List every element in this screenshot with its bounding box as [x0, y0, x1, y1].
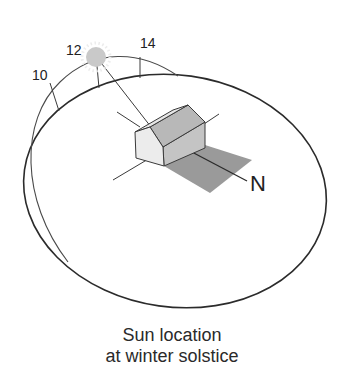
axis-line-east: [204, 114, 219, 124]
north-label: N: [250, 171, 266, 196]
sun-ray-line: [102, 64, 151, 127]
caption-line-2: at winter solstice: [0, 346, 344, 367]
caption-line-1: Sun location: [0, 325, 344, 346]
hour-tick-12: [97, 66, 99, 88]
sun-path-diagram: 10 12 14 N: [0, 0, 344, 367]
horizon-ellipse: [8, 55, 341, 327]
axis-line-west: [117, 112, 140, 127]
sun-icon: [82, 43, 110, 71]
axis-line-south: [113, 158, 150, 180]
hour-label-12: 12: [66, 42, 82, 58]
hour-label-14: 14: [140, 35, 156, 51]
hour-label-10: 10: [32, 67, 48, 83]
